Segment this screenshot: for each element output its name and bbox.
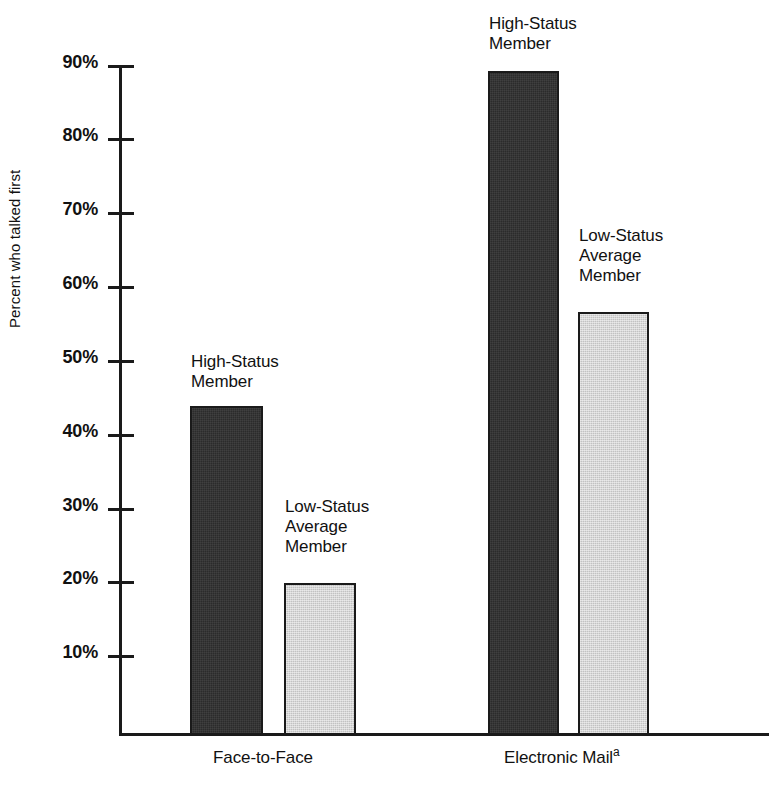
bar-chart-figure: Percent who talked first 90% 80% 70% 60%… (0, 0, 770, 788)
plot-area: High-Status Member Low-Status Average Me… (0, 0, 770, 736)
group-label-electronic-mail: Electronic Maila (504, 748, 620, 768)
bar-face-to-face-low-status (284, 583, 356, 735)
footnote-marker-a: a (613, 745, 620, 759)
bar-electronic-mail-low-status (578, 312, 649, 735)
group-label-face-to-face: Face-to-Face (213, 748, 313, 768)
bar-label-face-to-face-low-status: Low-Status Average Member (285, 497, 369, 557)
bar-label-electronic-mail-low-status: Low-Status Average Member (579, 226, 663, 286)
bar-electronic-mail-high-status (488, 71, 559, 735)
bar-face-to-face-high-status (190, 406, 263, 735)
bar-label-face-to-face-high-status: High-Status Member (191, 352, 279, 392)
group-label-electronic-mail-text: Electronic Mail (504, 748, 613, 767)
bar-label-electronic-mail-high-status: High-Status Member (489, 14, 577, 54)
group-label-face-to-face-text: Face-to-Face (213, 748, 313, 767)
